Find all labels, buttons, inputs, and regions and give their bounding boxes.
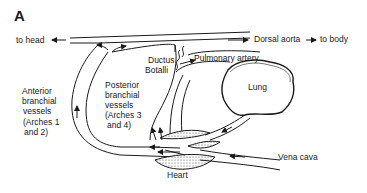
label-anterior-1: Anterior — [22, 86, 52, 96]
label-heart: Heart — [167, 170, 188, 180]
label-posterior-3: vessels — [105, 100, 133, 110]
dorsal-aorta-upper — [70, 32, 250, 38]
label-anterior-2: branchial — [22, 96, 57, 106]
label-pulmonary-artery: Pulmonary artery — [194, 53, 259, 63]
heart-chamber-upper — [160, 130, 210, 138]
label-to-head: to head — [16, 35, 44, 45]
label-vena-cava: Vena cava — [278, 152, 318, 162]
label-anterior-5: and 2) — [24, 127, 48, 137]
label-lung: Lung — [248, 82, 267, 92]
label-posterior-4: (Arches 3 — [105, 110, 141, 120]
dorsal-aorta-lower — [70, 38, 250, 43]
label-posterior-2: branchial — [105, 90, 140, 100]
label-ductus-1: Ductus — [148, 55, 174, 65]
label-dorsal-aorta: Dorsal aorta — [254, 34, 300, 44]
label-anterior-3: vessels — [23, 106, 51, 116]
label-posterior-1: Posterior — [105, 80, 139, 90]
label-ductus-2: Botalli — [145, 65, 168, 75]
label-anterior-4: (Arches 1 — [23, 117, 59, 127]
label-to-body: to body — [320, 34, 348, 44]
label-posterior-5: and 4) — [107, 120, 131, 130]
heart-chamber-mid — [188, 141, 220, 148]
